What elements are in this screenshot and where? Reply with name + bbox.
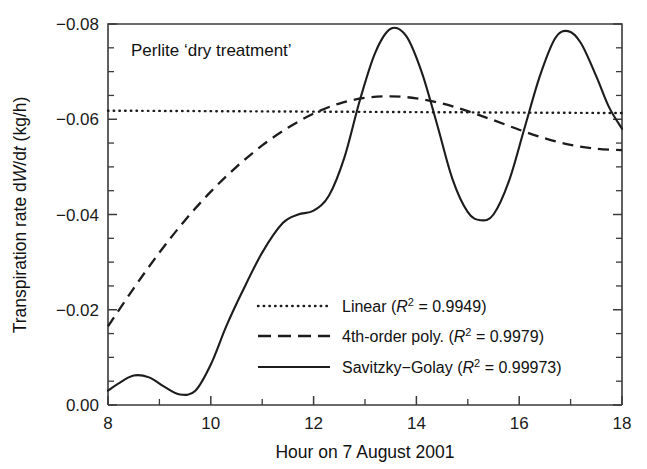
figure-container: −0.08−0.06−0.04−0.020.00 81012141618 Per… bbox=[0, 0, 647, 469]
x-tick-label: 8 bbox=[103, 414, 112, 433]
chart-svg: −0.08−0.06−0.04−0.020.00 81012141618 Per… bbox=[0, 0, 647, 469]
y-tick-label: −0.04 bbox=[56, 206, 99, 225]
x-axis-title: Hour on 7 August 2001 bbox=[275, 442, 454, 462]
legend-label-linear: Linear (R2 = 0.9949) bbox=[342, 296, 486, 315]
legend-label-savitzky-golay: Savitzky−Golay (R2 = 0.99973) bbox=[342, 357, 562, 376]
y-tick-label: −0.06 bbox=[56, 110, 99, 129]
legend-label-poly4: 4th-order poly. (R2 = 0.9979) bbox=[342, 326, 544, 345]
y-tick-label: −0.08 bbox=[56, 15, 99, 34]
x-tick-label: 18 bbox=[613, 414, 632, 433]
x-tick-label: 12 bbox=[304, 414, 323, 433]
x-tick-label: 16 bbox=[510, 414, 529, 433]
panel-title: Perlite ‘dry treatment’ bbox=[131, 41, 292, 60]
y-tick-label: −0.02 bbox=[56, 301, 99, 320]
y-axis-title: Transpiration rate dW/dt (kg/h) bbox=[10, 97, 30, 334]
x-tick-label: 10 bbox=[201, 414, 220, 433]
y-tick-label: 0.00 bbox=[66, 396, 99, 415]
x-tick-label: 14 bbox=[407, 414, 426, 433]
